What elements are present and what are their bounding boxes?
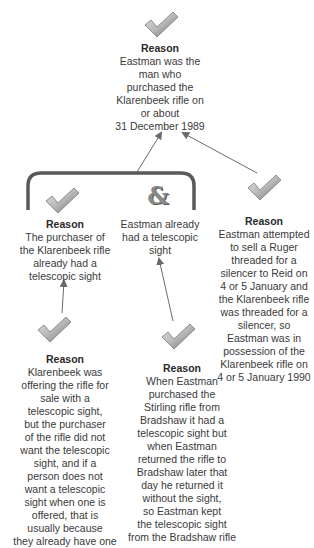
bottom-center-reason-node: Reason When Eastman purchased the Stirli… [118,362,246,544]
arrow-bottomcenter-to-right [159,259,173,321]
claim-text: Eastman was the man who purchased the Kl… [95,55,225,133]
right-reason-title: Reason [214,215,314,228]
bottom-left-reason-node: Reason Klarenbeek was offering the rifle… [0,353,130,548]
right-premise-node: Eastman already had a telescopic sight [112,218,208,257]
check-icon [36,315,72,347]
bottom-center-reason-text: When Eastman purchased the Stirling rifl… [118,375,246,544]
check-icon [143,10,179,42]
check-icon [160,322,196,354]
claim-node: Reason Eastman was the man who purchased… [95,42,225,133]
left-premise-title: Reason [10,218,120,231]
left-premise-node: Reason The purchaser of the Klarenbeek r… [10,218,120,283]
right-premise-text: Eastman already had a telescopic sight [112,218,208,257]
ampersand-icon: & [144,182,172,210]
arrow-bottomleft-to-left [62,281,64,313]
left-premise-text: The purchaser of the Klarenbeek rifle al… [10,231,120,283]
bottom-left-reason-text: Klarenbeek was offering the rifle for sa… [0,366,130,548]
right-reason-text: Eastman attempted to sell a Ruger thread… [214,228,314,384]
check-icon [246,173,282,205]
bottom-center-reason-title: Reason [118,362,246,375]
arrow-group-to-claim [137,133,161,172]
check-icon [44,186,80,218]
right-reason-node: Reason Eastman attempted to sell a Ruger… [214,215,314,384]
bottom-left-reason-title: Reason [0,353,130,366]
claim-title: Reason [95,42,225,55]
arrow-right-to-claim [183,133,257,173]
